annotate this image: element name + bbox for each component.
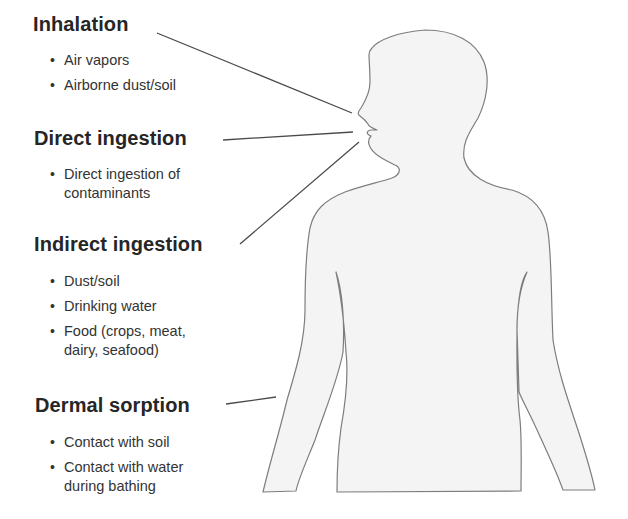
pathway-list-inhalation: •Air vapors •Airborne dust/soil (48, 51, 176, 101)
pathway-heading-inhalation: Inhalation (33, 13, 128, 36)
human-silhouette-icon (263, 30, 595, 492)
pathway-heading-dermal-sorption: Dermal sorption (35, 394, 190, 417)
list-item: •Dust/soil (48, 272, 186, 290)
pathway-list-direct-ingestion: •Direct ingestion ofcontaminants (48, 165, 180, 210)
leader-line-direct-ingestion (223, 132, 353, 140)
leader-line-dermal-sorption (226, 397, 276, 404)
exposure-pathways-diagram: Inhalation •Air vapors •Airborne dust/so… (0, 0, 628, 519)
bullet-icon: • (50, 433, 55, 451)
list-item: •Contact with soil (48, 433, 183, 451)
list-item: •Drinking water (48, 297, 186, 315)
bullet-icon: • (50, 76, 55, 94)
bullet-icon: • (50, 272, 55, 290)
pathway-list-dermal-sorption: •Contact with soil •Contact with waterdu… (48, 433, 183, 503)
bullet-icon: • (50, 322, 55, 341)
list-item: •Contact with waterduring bathing (48, 458, 183, 496)
bullet-icon: • (50, 165, 55, 184)
pathway-heading-indirect-ingestion: Indirect ingestion (34, 233, 202, 256)
list-item: •Airborne dust/soil (48, 76, 176, 94)
list-item: •Air vapors (48, 51, 176, 69)
leader-line-inhalation (157, 33, 352, 113)
bullet-icon: • (50, 458, 55, 477)
bullet-icon: • (50, 51, 55, 69)
list-item: •Direct ingestion ofcontaminants (48, 165, 180, 203)
pathway-list-indirect-ingestion: •Dust/soil •Drinking water •Food (crops,… (48, 272, 186, 367)
list-item: •Food (crops, meat,dairy, seafood) (48, 322, 186, 360)
pathway-heading-direct-ingestion: Direct ingestion (34, 127, 187, 150)
bullet-icon: • (50, 297, 55, 315)
